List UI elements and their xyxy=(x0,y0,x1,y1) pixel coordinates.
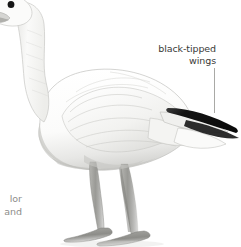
illustration-page: black-tipped wings lor and xyxy=(0,0,241,247)
leader-line xyxy=(214,68,215,113)
clipped-caption: lor and xyxy=(0,192,22,218)
wing-annotation-line1: black-tipped xyxy=(118,43,216,55)
wing-annotation: black-tipped wings xyxy=(118,43,216,66)
wing-annotation-line2: wings xyxy=(118,55,216,67)
snow-goose-illustration xyxy=(0,0,241,247)
eye xyxy=(8,1,15,8)
clipped-caption-line1: lor xyxy=(0,192,22,205)
head xyxy=(0,0,32,26)
clipped-caption-line2: and xyxy=(0,205,22,218)
